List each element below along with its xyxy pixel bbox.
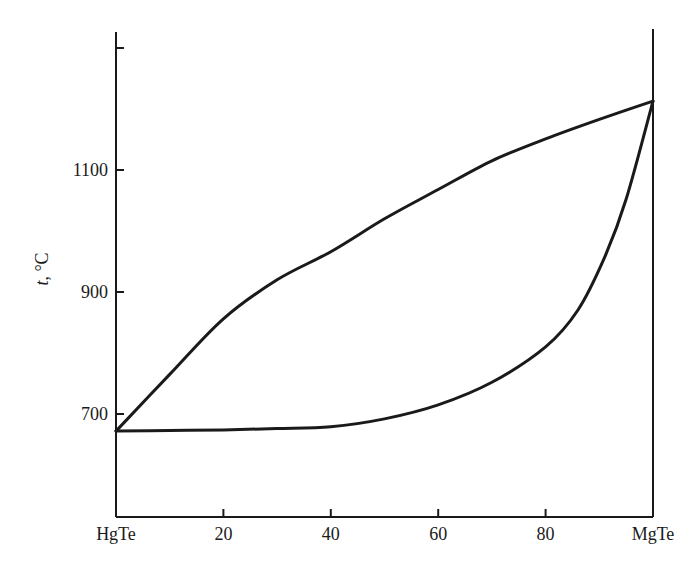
y-axis-label-unit: , °C xyxy=(32,252,52,280)
x-tick-label: 60 xyxy=(429,524,447,544)
y-tick-label: 1100 xyxy=(73,160,108,180)
y-tick-label: 700 xyxy=(81,404,108,424)
phase-diagram: 7009001100 HgTe20406080MgTe t, °C xyxy=(0,0,697,568)
solidus-curve xyxy=(116,101,653,431)
x-tick-label: HgTe xyxy=(96,524,136,544)
x-tick-label: 40 xyxy=(322,524,340,544)
curves xyxy=(116,101,653,431)
y-axis-label: t, °C xyxy=(32,252,52,285)
x-ticks: HgTe20406080MgTe xyxy=(96,509,674,544)
x-tick-label: 80 xyxy=(537,524,555,544)
plot-frame xyxy=(116,29,653,517)
x-tick-label: MgTe xyxy=(632,524,675,544)
y-tick-label: 900 xyxy=(81,282,108,302)
x-tick-label: 20 xyxy=(214,524,232,544)
liquidus-curve xyxy=(116,101,653,431)
